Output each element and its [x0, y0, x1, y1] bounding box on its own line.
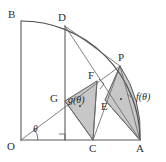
vertex-label-F: F — [88, 70, 94, 81]
vertex-label-E: E — [101, 101, 108, 112]
segment-DP — [65, 26, 120, 66]
angle-label-theta: θ — [33, 125, 38, 135]
center-dot-f-region — [120, 98, 122, 100]
figure-canvas — [0, 0, 166, 162]
region-label-g-theta: g(θ) — [68, 95, 85, 105]
vertex-label-G: G — [50, 93, 58, 104]
vertex-label-C: C — [89, 143, 96, 154]
vertex-label-A: A — [136, 143, 144, 154]
vertex-label-D: D — [58, 12, 66, 23]
vertex-label-P: P — [118, 52, 124, 63]
geometry-figure: B D P F E G O C A f(θ) g(θ) θ — [0, 0, 166, 162]
shaded-region-g-theta — [65, 81, 97, 140]
right-angle-mark-baseline — [59, 134, 65, 140]
vertex-label-B: B — [8, 9, 15, 20]
center-dot-g-region — [79, 105, 81, 107]
vertex-label-O: O — [7, 141, 15, 152]
region-label-f-theta: f(θ) — [136, 92, 150, 102]
